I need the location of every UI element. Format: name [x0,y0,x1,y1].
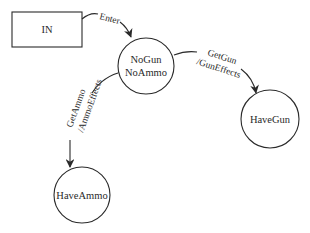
getgun-arrow [241,69,256,93]
getgun-line-a [174,52,197,55]
node-in: IN [12,12,82,47]
state-diagram: IN NoGun NoAmmo HaveGun HaveAmmo Enter G… [0,0,310,233]
havegun-label: HaveGun [250,114,291,125]
node-havegun: HaveGun [241,90,299,148]
enter-line-a [82,14,98,19]
enter-arrow [120,22,131,37]
nogun-label: NoGun [131,54,163,65]
noammo-label: NoAmmo [125,67,167,78]
in-label: IN [41,24,52,35]
edge-enter: Enter [82,11,131,37]
edge-getammo: GetAmmo /AmmoEffects [64,73,118,167]
node-nogun-noammo: NoGun NoAmmo [118,38,174,94]
haveammo-label: HaveAmmo [56,190,107,201]
enter-label: Enter [99,11,122,26]
nogun-noammo-circle [118,38,174,94]
node-haveammo: HaveAmmo [54,167,110,223]
edge-getgun: GetGun /GunEffects [174,47,256,93]
